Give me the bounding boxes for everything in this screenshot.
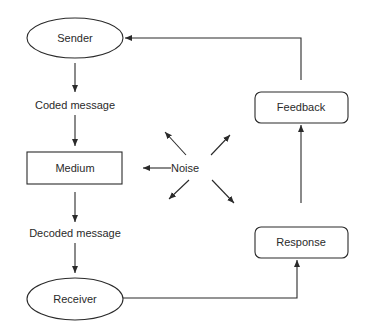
coded-message-label: Coded message bbox=[35, 99, 115, 111]
receiver-node: Receiver bbox=[27, 278, 123, 320]
arrow-noise-up-left bbox=[165, 132, 186, 155]
noise-label: Noise bbox=[171, 162, 199, 174]
feedback-node: Feedback bbox=[255, 92, 348, 123]
sender-node: Sender bbox=[27, 18, 123, 58]
sender-label: Sender bbox=[57, 32, 93, 44]
medium-node: Medium bbox=[27, 152, 122, 184]
response-node: Response bbox=[255, 227, 348, 258]
arrow-noise-up-right bbox=[211, 135, 230, 155]
decoded-message-label: Decoded message bbox=[29, 227, 121, 239]
arrow-feedback-to-sender bbox=[125, 38, 301, 80]
feedback-label: Feedback bbox=[277, 101, 326, 113]
arrow-noise-down-left bbox=[169, 180, 189, 199]
receiver-label: Receiver bbox=[53, 293, 97, 305]
medium-label: Medium bbox=[55, 162, 94, 174]
arrow-receiver-to-response bbox=[123, 260, 297, 298]
communication-diagram: Sender Coded message Medium Decoded mess… bbox=[0, 0, 369, 332]
response-label: Response bbox=[276, 236, 326, 248]
arrow-noise-down-right bbox=[212, 180, 234, 203]
